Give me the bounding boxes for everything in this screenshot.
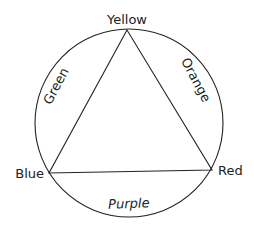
label-yellow: Yellow	[106, 12, 147, 27]
label-green: Green	[40, 65, 72, 107]
label-orange: Orange	[178, 55, 214, 104]
label-purple: Purple	[108, 195, 150, 211]
label-blue: Blue	[15, 166, 44, 181]
primary-triangle	[49, 30, 212, 173]
label-red: Red	[218, 163, 243, 178]
wheel-circle	[35, 29, 223, 217]
color-wheel-diagram: Yellow Blue Red Green Orange Purple	[0, 0, 254, 231]
